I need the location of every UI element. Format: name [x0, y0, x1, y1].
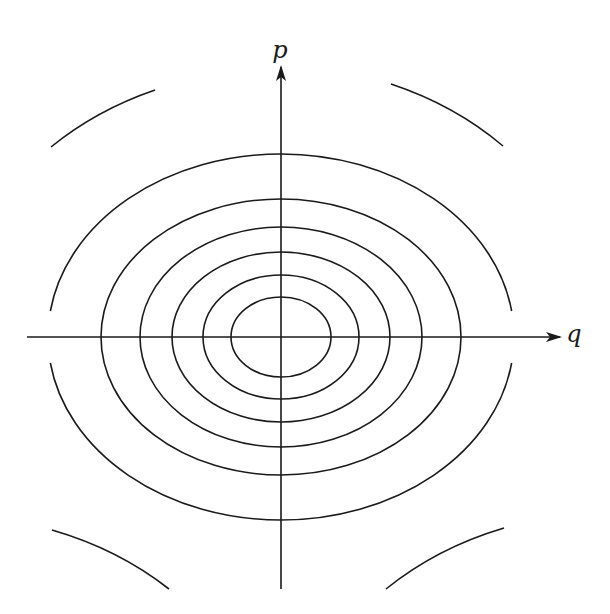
outer-arc-bottom-left: [52, 530, 169, 589]
q-axis-label: q: [566, 322, 581, 346]
outer-arc-bottom-right: [386, 528, 504, 589]
outer-arc-top-left: [51, 90, 155, 147]
p-axis-label: p: [272, 38, 287, 62]
phase-portrait-diagram: [0, 0, 610, 614]
outer-arc-top-right: [391, 84, 503, 146]
